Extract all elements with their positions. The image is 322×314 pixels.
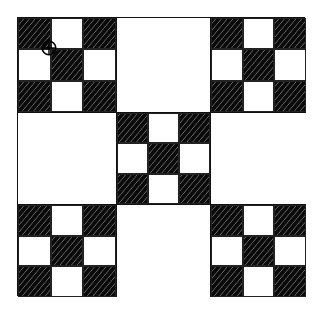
light-square: [179, 143, 210, 173]
dark-square: [211, 81, 243, 112]
dark-square: [18, 81, 51, 112]
light-square: [51, 266, 84, 297]
light-square: [117, 143, 148, 173]
dark-square: [274, 18, 306, 49]
dark-square: [211, 266, 243, 297]
light-square: [274, 49, 306, 80]
dark-square: [179, 113, 210, 143]
light-square: [243, 81, 275, 112]
light-square: [148, 113, 179, 143]
dark-square: [117, 113, 148, 143]
dark-square: [18, 266, 51, 297]
dark-square: [83, 81, 116, 112]
dark-square: [117, 174, 148, 204]
dark-square: [83, 266, 116, 297]
plain-block-middle-right: [210, 112, 306, 204]
light-square: [148, 174, 179, 204]
dark-square: [274, 205, 306, 236]
ninepatch-block-center: [116, 112, 210, 204]
dark-square: [83, 205, 116, 236]
ninepatch-block-top-left: [18, 18, 116, 112]
light-square: [211, 49, 243, 80]
light-square: [243, 205, 275, 236]
dark-square: [243, 236, 275, 267]
dark-square: [148, 143, 179, 173]
light-square: [83, 49, 116, 80]
light-square: [51, 81, 84, 112]
plain-block-bottom-center: [116, 204, 210, 297]
dark-square: [243, 49, 275, 80]
ninepatch-block-bottom-right: [210, 204, 306, 297]
light-square: [51, 205, 84, 236]
plain-block-middle-left: [18, 112, 116, 204]
light-square: [211, 236, 243, 267]
light-square: [243, 266, 275, 297]
dark-square: [51, 236, 84, 267]
crosshair-circle-icon: [41, 40, 57, 56]
dark-square: [211, 205, 243, 236]
dark-square: [83, 18, 116, 49]
dark-square: [274, 266, 306, 297]
ninepatch-block-top-right: [210, 18, 306, 112]
dark-square: [18, 205, 51, 236]
dark-square: [211, 18, 243, 49]
dark-square: [274, 81, 306, 112]
light-square: [18, 236, 51, 267]
ninepatch-block-bottom-left: [18, 204, 116, 297]
quilt-diagram: [17, 17, 305, 296]
light-square: [274, 236, 306, 267]
dark-square: [179, 174, 210, 204]
light-square: [243, 18, 275, 49]
plain-block-top-center: [116, 18, 210, 112]
light-square: [83, 236, 116, 267]
